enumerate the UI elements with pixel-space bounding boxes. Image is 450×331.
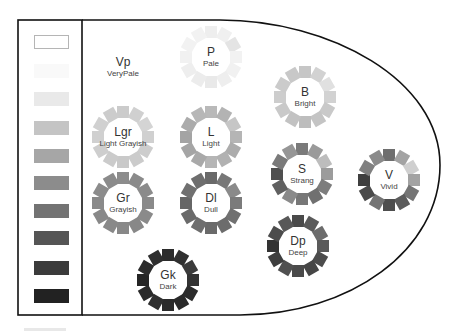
- gray-swatch-white: [34, 35, 69, 49]
- gray-swatch-gray-3: [34, 204, 69, 218]
- gray-swatch-near-white: [34, 64, 69, 78]
- tone-abbreviation: Lgr: [99, 126, 146, 139]
- tone-label-vp: VpVeryPale: [107, 56, 139, 79]
- color-chip: [230, 51, 242, 63]
- color-chip: [162, 299, 174, 311]
- tone-label-dp: DpDeep: [288, 235, 307, 258]
- color-chip: [296, 193, 308, 205]
- color-chip: [117, 156, 129, 168]
- color-chip: [383, 199, 395, 211]
- color-chip: [117, 222, 129, 234]
- tone-label-v: VVivid: [380, 169, 397, 192]
- tone-abbreviation: Gr: [109, 192, 137, 205]
- color-chip: [230, 197, 242, 209]
- tone-abbreviation: Dl: [204, 192, 218, 205]
- tone-label-lgr: LgrLight Grayish: [99, 126, 146, 149]
- tone-name: Dull: [204, 205, 218, 215]
- gray-swatch-gray-1: [34, 149, 69, 163]
- color-chip: [205, 156, 217, 168]
- gray-swatch-near-black: [34, 289, 69, 303]
- color-chip: [324, 91, 336, 103]
- tone-label-b: BBright: [295, 86, 316, 109]
- tone-abbreviation: Gk: [160, 269, 177, 282]
- tone-name: VeryPale: [107, 69, 139, 79]
- color-chip: [205, 222, 217, 234]
- gray-swatch-gray-2: [34, 176, 69, 190]
- gray-swatch-very-light-gray: [34, 92, 69, 106]
- tone-name: Strang: [290, 176, 314, 186]
- gray-swatch-light-gray: [34, 121, 69, 135]
- tone-name: Grayish: [109, 205, 137, 215]
- tone-abbreviation: Dp: [288, 235, 307, 248]
- tone-abbreviation: S: [290, 163, 314, 176]
- tone-abbreviation: V: [380, 169, 397, 182]
- tone-label-l: LLight: [202, 126, 219, 149]
- tone-name: Light: [202, 139, 219, 149]
- tone-label-s: SStrang: [290, 163, 314, 186]
- color-chip: [321, 168, 333, 180]
- tone-abbreviation: P: [203, 46, 219, 59]
- tone-name: Bright: [295, 99, 316, 109]
- color-chip: [230, 131, 242, 143]
- tone-label-dl: DlDull: [204, 192, 218, 215]
- tone-abbreviation: L: [202, 126, 219, 139]
- gray-swatch-dark-gray-2: [34, 261, 69, 275]
- tone-name: Pale: [203, 59, 219, 69]
- color-chip: [187, 274, 199, 286]
- tone-label-gr: GrGrayish: [109, 192, 137, 215]
- tone-label-p: PPale: [203, 46, 219, 69]
- color-chip: [292, 265, 304, 277]
- color-chip: [205, 76, 217, 88]
- tone-name: Dark: [160, 282, 177, 292]
- color-chip: [142, 197, 154, 209]
- tone-name: Deep: [288, 248, 307, 258]
- gray-swatch-dark-gray-1: [34, 231, 69, 245]
- color-chip: [299, 116, 311, 128]
- tone-name: Light Grayish: [99, 139, 146, 149]
- diagram-frame: [0, 0, 450, 331]
- color-chip: [408, 174, 420, 186]
- tone-abbreviation: Vp: [107, 56, 139, 69]
- tone-abbreviation: B: [295, 86, 316, 99]
- color-chip: [317, 240, 329, 252]
- tone-label-gk: GkDark: [160, 269, 177, 292]
- tone-name: Vivid: [380, 182, 397, 192]
